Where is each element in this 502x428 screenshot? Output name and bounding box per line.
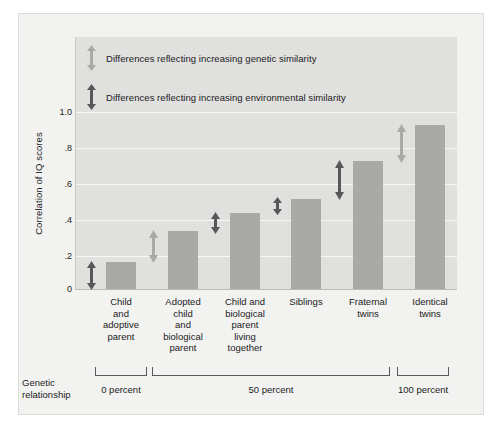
genetic-percent-0: 0 percent (95, 384, 147, 395)
gridline-1.0 (75, 112, 457, 113)
difference-arrow-0.15-to-0.32 (148, 230, 159, 263)
category-label-adopted-child-and-biological-parent: Adoptedchildandbiologicalparent (152, 296, 214, 354)
bar-fraternal-twins (353, 161, 383, 289)
y-tick-0: 0 (26, 284, 72, 294)
bracket-0-percent (95, 367, 147, 376)
difference-arrow-0-to-0.15 (86, 261, 97, 290)
bar-adopted-child-and-biological-parent (168, 231, 198, 289)
plot-area (75, 37, 457, 289)
genetic-percent-50: 50 percent (152, 384, 390, 395)
legend-item-genetic: Differences reflecting increasing geneti… (86, 45, 316, 71)
category-label-identical-twins: Identicaltwins (399, 296, 461, 319)
bracket-50-percent (152, 367, 390, 376)
bracket-100-percent (397, 367, 449, 376)
genetic-percent-100: 100 percent (392, 384, 454, 395)
chart-figure: 1.0 .8 .6 .4 .2 0 Correlation of IQ scor… (0, 0, 502, 428)
gridline-0.4 (75, 220, 457, 221)
bar-siblings (291, 199, 321, 289)
bar-identical-twins (415, 125, 445, 289)
bar-child-and-adoptive-parent (106, 262, 136, 289)
y-axis-line (75, 37, 76, 290)
difference-arrow-0.32-to-0.42 (210, 212, 221, 234)
y-axis-ticks: 1.0 .8 .6 .4 .2 0 Correlation of IQ scor… (22, 0, 72, 428)
difference-arrow-0.50-to-0.71 (334, 160, 345, 200)
legend-label-environmental: Differences reflecting increasing enviro… (106, 92, 346, 103)
category-label-siblings: Siblings (275, 296, 337, 308)
category-label-child-and-adoptive-parent: Childandadoptiveparent (90, 296, 152, 342)
legend-item-environmental: Differences reflecting increasing enviro… (86, 84, 346, 110)
difference-arrow-0.71-to-0.91 (396, 124, 407, 163)
y-axis-label: Correlation of IQ scores (33, 104, 44, 264)
x-axis-line (75, 289, 457, 290)
double-arrow-icon-environmental (86, 84, 97, 110)
category-label-child-and-biological-parent-living-together: Child andbiologicalparentlivingtogether (214, 296, 276, 354)
double-arrow-icon-genetic (86, 45, 97, 71)
gridline-0.2 (75, 256, 457, 257)
legend-label-genetic: Differences reflecting increasing geneti… (106, 53, 316, 64)
gridline-0.6 (75, 184, 457, 185)
category-label-fraternal-twins: Fraternaltwins (337, 296, 399, 319)
bar-child-and-biological-parent-living-together (230, 213, 260, 289)
difference-arrow-0.42-to-0.50 (272, 197, 283, 215)
genetic-relationship-caption: Genetic relationship (22, 377, 84, 400)
